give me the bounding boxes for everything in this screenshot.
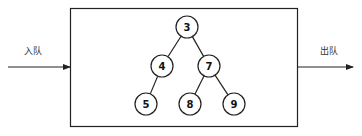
tree-node-value: 4: [159, 61, 166, 72]
tree-node-value: 5: [143, 99, 150, 110]
tree-edge-n7-n8: [195, 76, 204, 94]
tree-node-value: 7: [206, 61, 213, 72]
tree-edge-n4-n5: [150, 76, 157, 94]
tree-edge-n3-n4: [168, 36, 181, 56]
tree-node: 9: [223, 93, 245, 115]
tree-nodes: 347589: [135, 16, 245, 115]
tree-node-value: 8: [187, 99, 194, 110]
tree-edge-n3-n7: [192, 37, 203, 57]
tree-node: 7: [198, 55, 220, 77]
priority-queue-diagram: 入队 出队 347589: [0, 0, 362, 136]
tree-node: 3: [176, 16, 198, 38]
tree-node-value: 3: [184, 22, 191, 33]
tree-node: 8: [179, 93, 201, 115]
dequeue-label: 出队: [320, 45, 338, 56]
tree-node: 5: [135, 93, 157, 115]
tree-node: 4: [151, 55, 173, 77]
tree-node-value: 9: [231, 99, 238, 110]
enqueue-label: 入队: [24, 45, 42, 56]
tree-edge-n7-n9: [215, 75, 228, 95]
